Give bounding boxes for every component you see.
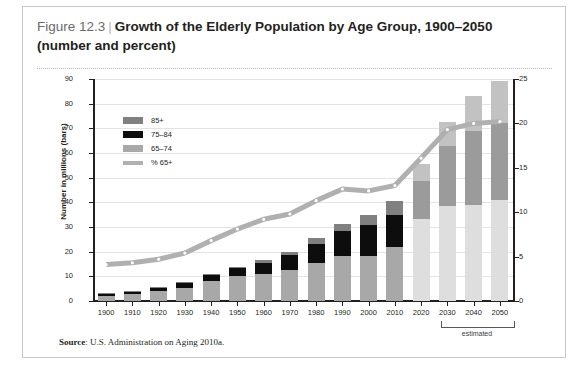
x-tick-mark — [421, 302, 422, 306]
y-axis-left-label: Number in millions (bars) — [59, 123, 68, 219]
legend-line-swatch — [123, 161, 143, 165]
x-tick-mark — [132, 302, 133, 306]
percent-line-marker-1980 — [315, 199, 318, 202]
x-tick-mark — [159, 302, 160, 306]
percent-line-marker-2040 — [472, 122, 475, 125]
legend-label: % 65+ — [151, 158, 172, 167]
title-separator: | — [105, 19, 115, 34]
percent-line-marker-1910 — [131, 261, 134, 264]
y-tick-label-right: 0 — [519, 296, 549, 305]
chart-legend: 85+75–8465–74% 65+ — [123, 115, 172, 171]
legend-label: 65–74 — [151, 144, 172, 153]
y-tick-label-left: 10 — [43, 271, 73, 280]
percent-line-marker-2050 — [498, 120, 501, 123]
legend-item-7584: 75–84 — [123, 129, 172, 140]
percent-line-marker-1960 — [262, 218, 265, 221]
percent-line-marker-1970 — [288, 212, 291, 215]
y-tick-mark-right — [515, 212, 519, 213]
y-tick-label-right: 20 — [519, 118, 549, 127]
x-tick-mark — [316, 302, 317, 306]
x-tick-mark — [474, 302, 475, 306]
y-tick-label-right: 5 — [519, 252, 549, 261]
source-note: Source: U.S. Administration on Aging 201… — [59, 337, 224, 347]
percent-line-marker-1990 — [341, 188, 344, 191]
x-tick-mark — [500, 302, 501, 306]
percent-line-marker-1950 — [236, 227, 239, 230]
percent-line-marker-2020 — [420, 156, 423, 159]
title-divider — [37, 68, 552, 69]
y-tick-mark-right — [515, 301, 519, 302]
source-label: Source — [59, 337, 85, 347]
x-tick-mark — [211, 302, 212, 306]
y-tick-mark-right — [515, 79, 519, 80]
percent-line-marker-1940 — [210, 239, 213, 242]
figure-title: Figure 12.3|Growth of the Elderly Popula… — [37, 17, 551, 55]
percent-line-marker-1930 — [183, 251, 186, 254]
figure-number: Figure 12.3 — [37, 19, 105, 34]
percent-line-marker-2000 — [367, 189, 370, 192]
figure-title-line1: Growth of the Elderly Population by Age … — [115, 19, 493, 34]
figure-title-line2: (number and percent) — [37, 36, 551, 55]
percent-line-marker-2030 — [446, 128, 449, 131]
legend-color-swatch — [123, 131, 143, 138]
figure-container: Figure 12.3|Growth of the Elderly Popula… — [22, 6, 566, 358]
legend-label: 85+ — [151, 116, 164, 125]
y-tick-label-left: 80 — [43, 99, 73, 108]
y-tick-label-left: 30 — [43, 222, 73, 231]
y-tick-mark-right — [515, 123, 519, 124]
x-tick-mark — [447, 302, 448, 306]
percent-line-marker-1920 — [157, 258, 160, 261]
y-tick-mark-right — [515, 168, 519, 169]
y-axis-right-line — [513, 79, 515, 301]
x-tick-label-2050: 2050 — [483, 308, 517, 317]
x-tick-mark — [395, 302, 396, 306]
x-tick-mark — [264, 302, 265, 306]
x-tick-mark — [342, 302, 343, 306]
legend-item-6574: 65–74 — [123, 143, 172, 154]
y-tick-label-left: 90 — [43, 74, 73, 83]
y-tick-label-right: 25 — [519, 74, 549, 83]
estimated-label: estimated — [441, 330, 513, 337]
y-tick-label-right: 15 — [519, 163, 549, 172]
legend-color-swatch — [123, 117, 143, 124]
x-tick-mark — [106, 302, 107, 306]
y-tick-mark-right — [515, 257, 519, 258]
percent-line-marker-2010 — [393, 184, 396, 187]
y-tick-label-left: 0 — [43, 296, 73, 305]
legend-color-swatch — [123, 145, 143, 152]
percent-line-marker-1900 — [105, 263, 108, 266]
x-tick-mark — [369, 302, 370, 306]
chart-area: 0102030405060708090 0510152025 Number in… — [23, 71, 567, 311]
x-tick-mark — [237, 302, 238, 306]
x-tick-mark — [185, 302, 186, 306]
percent-line-layer — [93, 79, 513, 301]
x-tick-mark — [290, 302, 291, 306]
y-tick-label-right: 10 — [519, 207, 549, 216]
legend-label: 75–84 — [151, 130, 172, 139]
legend-item-65+: % 65+ — [123, 157, 172, 168]
y-tick-label-left: 20 — [43, 247, 73, 256]
legend-item-85+: 85+ — [123, 115, 172, 126]
estimated-bracket — [441, 321, 515, 328]
source-text: : U.S. Administration on Aging 2010a. — [85, 337, 224, 347]
